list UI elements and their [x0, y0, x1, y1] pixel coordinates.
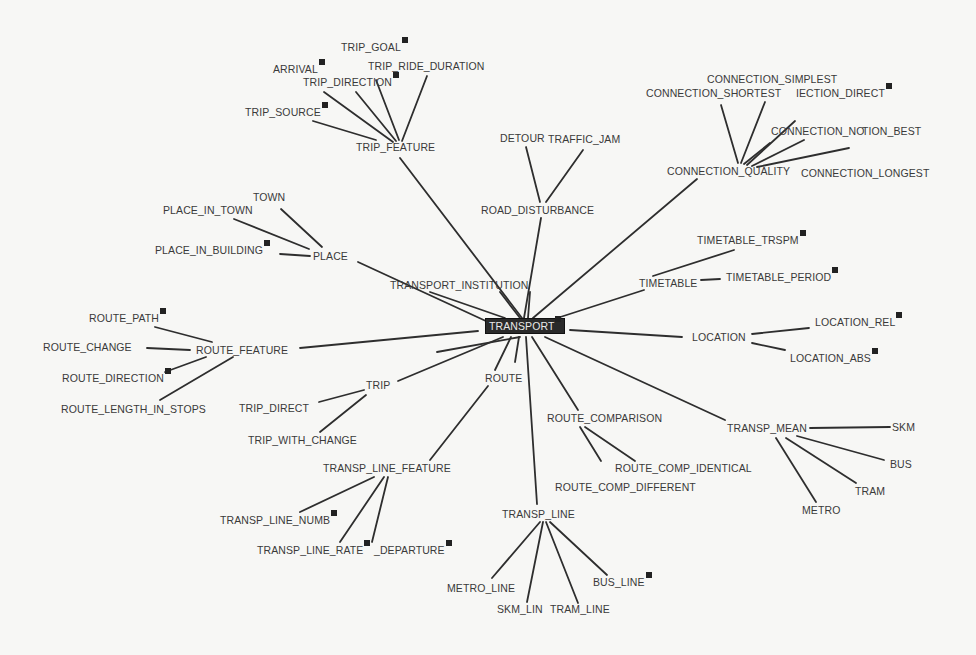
node-metro[interactable]: METRO: [802, 504, 840, 516]
node-connection-no[interactable]: CONNECTION_NO: [771, 125, 864, 137]
node-location-rel[interactable]: LOCATION_REL: [815, 316, 902, 328]
node-label: ROUTE_CHANGE: [43, 341, 132, 353]
node-label: TIMETABLE_PERIOD: [726, 271, 831, 283]
node-label: SKM: [892, 421, 915, 433]
node-label: TRAM_LINE: [550, 603, 610, 615]
node-skm[interactable]: SKM: [892, 421, 915, 433]
node-label: TRIP_SOURCE: [245, 106, 321, 118]
node-label: TIMETABLE: [639, 277, 697, 289]
node-label: CONNECTION_LONGEST: [801, 167, 929, 179]
graph-edge: [280, 254, 310, 256]
graph-edge: [550, 522, 607, 575]
node-bus-line[interactable]: BUS_LINE: [593, 576, 652, 588]
graph-edge: [500, 292, 520, 318]
node-trip-ride-duration[interactable]: TRIP_RIDE_DURATION: [368, 60, 485, 72]
node-location[interactable]: LOCATION: [692, 331, 746, 343]
graph-edge: [524, 218, 541, 318]
node-transp-line[interactable]: TRANSP_LINE: [502, 508, 575, 520]
node-timetable[interactable]: TIMETABLE: [639, 277, 697, 289]
node-transp-line-feature[interactable]: TRANSP_LINE_FEATURE: [323, 462, 451, 474]
node-transp-line-numb[interactable]: TRANSP_LINE_NUMB: [220, 514, 337, 526]
graph-edge: [165, 357, 206, 372]
node-label: LOCATION_REL: [815, 316, 895, 328]
node-connection-shortest[interactable]: CONNECTION_SHORTEST: [646, 87, 781, 99]
node-place-in-town[interactable]: PLACE_IN_TOWN: [163, 204, 253, 216]
node-route-comp-identical[interactable]: ROUTE_COMP_IDENTICAL: [615, 462, 752, 474]
graph-edge: [580, 427, 601, 461]
node-transp-line-rate[interactable]: TRANSP_LINE_RATE: [257, 544, 370, 556]
graph-edge: [570, 330, 682, 337]
graph-edge: [430, 292, 505, 318]
graph-edge: [515, 337, 519, 362]
node-label: TRIP_GOAL: [341, 41, 401, 53]
node-transport-institution[interactable]: TRANSPORT_INSTITUTION: [390, 279, 528, 291]
annotation-badge-icon: [896, 312, 902, 318]
node-detour[interactable]: DETOUR: [500, 132, 545, 144]
node-trip[interactable]: TRIP: [366, 379, 390, 391]
graph-edge: [776, 438, 816, 502]
node-label: ROUTE_DIRECTION: [62, 372, 164, 384]
node-route-length-in-stops[interactable]: ROUTE_LENGTH_IN_STOPS: [61, 403, 206, 415]
node-label: ROUTE_LENGTH_IN_STOPS: [61, 403, 206, 415]
graph-edge: [721, 105, 738, 163]
node-label: CONNECTION_QUALITY: [667, 165, 790, 177]
node-route-feature[interactable]: ROUTE_FEATURE: [196, 344, 288, 356]
graph-edge: [400, 158, 522, 318]
node-location-abs[interactable]: LOCATION_ABS: [790, 352, 878, 364]
node-traffic-jam[interactable]: TRAFFIC_JAM: [548, 133, 620, 145]
node-route-comparison[interactable]: ROUTE_COMPARISON: [547, 412, 662, 424]
concept-graph: TRANSPORTTRIP_FEATURETRIP_GOALARRIVALTRI…: [0, 0, 976, 655]
node-label: TRIP: [366, 379, 390, 391]
node-timetable-trspm[interactable]: TIMETABLE_TRSPM: [697, 234, 806, 246]
node-label: METRO: [802, 504, 840, 516]
node-trip-direction[interactable]: TRIP_DIRECTION: [303, 76, 399, 88]
node-tram-line[interactable]: TRAM_LINE: [550, 603, 610, 615]
graph-edge: [300, 331, 478, 348]
node-road-disturbance[interactable]: ROAD_DISTURBANCE: [481, 204, 594, 216]
node-label: BUS: [890, 458, 912, 470]
graph-edge: [372, 477, 388, 542]
node-connection-best[interactable]: TION_BEST: [862, 125, 921, 137]
annotation-badge-icon: [886, 83, 892, 89]
node-transp-mean[interactable]: TRANSP_MEAN: [727, 422, 807, 434]
node-connection-longest[interactable]: CONNECTION_LONGEST: [801, 167, 929, 179]
node-label: ROUTE_COMP_IDENTICAL: [615, 462, 752, 474]
node-label: CONNECTION_NO: [771, 125, 864, 137]
node-label: TRAM: [855, 485, 885, 497]
node-skm-line[interactable]: SKM_LIN: [497, 603, 543, 615]
node-label: TRIP_DIRECTION: [303, 76, 392, 88]
node-trip-goal[interactable]: TRIP_GOAL: [341, 41, 408, 53]
node-connection-direct[interactable]: IECTION_DIRECT: [796, 87, 892, 99]
node-place[interactable]: PLACE: [313, 250, 348, 262]
node-label: ROUTE: [485, 372, 522, 384]
node-connection-simplest[interactable]: CONNECTION_SIMPLEST: [707, 73, 837, 85]
node-route[interactable]: ROUTE: [485, 372, 522, 384]
node-bus[interactable]: BUS: [890, 458, 912, 470]
node-route-change[interactable]: ROUTE_CHANGE: [43, 341, 132, 353]
node-route-comp-different[interactable]: ROUTE_COMP_DIFFERENT: [555, 481, 696, 493]
node-metro-line[interactable]: METRO_LINE: [447, 582, 515, 594]
node-trip-feature[interactable]: TRIP_FEATURE: [356, 141, 435, 153]
node-transport[interactable]: TRANSPORT: [485, 318, 565, 334]
node-route-direction[interactable]: ROUTE_DIRECTION: [62, 372, 171, 384]
node-label: TOWN: [253, 191, 285, 203]
node-place-in-building[interactable]: PLACE_IN_BUILDING: [155, 244, 270, 256]
node-label: TRANSP_MEAN: [727, 422, 807, 434]
node-route-path[interactable]: ROUTE_PATH: [89, 312, 166, 324]
node-trip-source[interactable]: TRIP_SOURCE: [245, 106, 328, 118]
node-departure[interactable]: _DEPARTURE: [374, 544, 452, 556]
node-label: TRANSP_LINE: [502, 508, 575, 520]
graph-edge: [810, 427, 890, 428]
node-label: TRANSP_LINE_NUMB: [220, 514, 330, 526]
node-arrival[interactable]: ARRIVAL: [273, 63, 325, 75]
graph-edge: [319, 390, 364, 402]
node-trip-direct[interactable]: TRIP_DIRECT: [239, 402, 309, 414]
node-connection-quality[interactable]: CONNECTION_QUALITY: [667, 165, 790, 177]
node-town[interactable]: TOWN: [253, 191, 285, 203]
node-label: METRO_LINE: [447, 582, 515, 594]
node-trip-with-change[interactable]: TRIP_WITH_CHANGE: [248, 434, 357, 446]
node-label: LOCATION: [692, 331, 746, 343]
node-tram[interactable]: TRAM: [855, 485, 885, 497]
node-timetable-period[interactable]: TIMETABLE_PERIOD: [726, 271, 838, 283]
annotation-badge-icon: [646, 572, 652, 578]
